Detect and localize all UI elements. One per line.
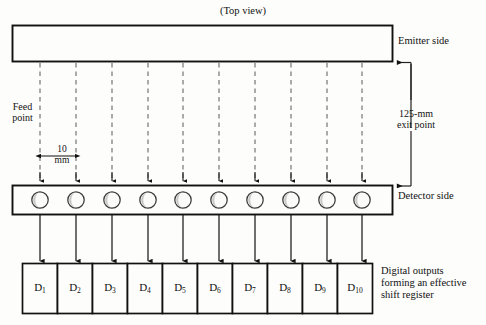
output-label-text: D (139, 281, 147, 293)
spacing-dimension-label: 10 mm (48, 144, 76, 165)
beam-paths-group (40, 63, 362, 178)
output-box-label-10: D10 (337, 281, 373, 293)
output-box-label-5: D5 (162, 281, 198, 293)
beam-arrowheads-group (40, 172, 362, 181)
detector-element-9 (319, 192, 335, 208)
detector-element-5 (175, 192, 191, 208)
output-label-text: D (34, 281, 42, 293)
exit-point-label: 125-mm exit point (386, 108, 446, 130)
detector-element-7 (247, 192, 263, 208)
output-label-index: 2 (77, 286, 81, 295)
output-label-text: D (104, 281, 112, 293)
emitter-side-label: Emitter side (398, 35, 449, 47)
output-label-index: 7 (252, 286, 256, 295)
output-label-text: D (69, 281, 77, 293)
output-box-label-4: D4 (127, 281, 163, 293)
output-label-text: D (314, 281, 322, 293)
detector-side-label: Detector side (398, 190, 454, 202)
detector-element-2 (68, 192, 84, 208)
output-box-label-7: D7 (232, 281, 268, 293)
detector-element-3 (104, 192, 120, 208)
output-box-label-6: D6 (197, 281, 233, 293)
detector-element-8 (283, 192, 299, 208)
detector-element-10 (354, 192, 370, 208)
output-label-index: 8 (287, 286, 291, 295)
output-box-label-8: D8 (267, 281, 303, 293)
output-label-index: 4 (147, 286, 151, 295)
feed-point-label: Feed point (6, 101, 39, 123)
output-label-text: D (174, 281, 182, 293)
output-box-label-2: D2 (57, 281, 93, 293)
detector-element-6 (211, 192, 227, 208)
output-label-index: 1 (42, 286, 46, 295)
output-label-index: 5 (182, 286, 186, 295)
output-label-index: 3 (112, 286, 116, 295)
shift-register-caption: Digital outputs forming an effective shi… (381, 265, 485, 300)
output-label-text: D (279, 281, 287, 293)
output-box-label-1: D1 (22, 281, 58, 293)
output-box-label-3: D3 (92, 281, 128, 293)
output-label-text: D (209, 281, 217, 293)
output-arrows-group (40, 215, 362, 261)
detector-element-4 (140, 192, 156, 208)
output-label-index: 9 (322, 286, 326, 295)
output-label-index: 6 (217, 286, 221, 295)
emitter-bar (13, 26, 393, 62)
output-box-label-9: D9 (302, 281, 338, 293)
output-label-text: D (244, 281, 252, 293)
output-label-index: 10 (355, 286, 363, 295)
diagram-canvas: (Top view) Emitter side Detector side Fe… (0, 0, 486, 325)
detector-element-1 (32, 192, 48, 208)
page-title: (Top view) (0, 5, 486, 17)
